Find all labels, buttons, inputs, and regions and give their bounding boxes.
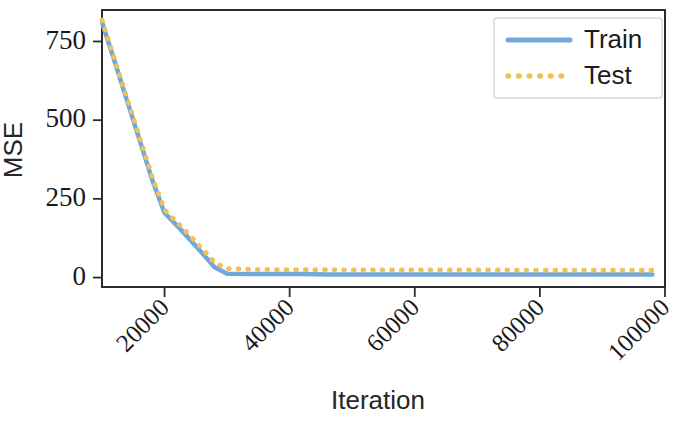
legend-label-test: Test [584,60,632,90]
y-axis-title: MSE [0,122,28,178]
y-tick-label: 750 [46,25,87,55]
y-tick-label: 250 [46,182,87,212]
y-tick-label: 500 [46,103,87,133]
x-axis-title: Iteration [331,385,425,415]
legend-label-train: Train [584,24,642,54]
y-tick-label: 0 [73,261,87,291]
chart-legend: TrainTest [494,18,662,98]
mse-vs-iteration-chart: 0250500750 20000400006000080000100000 MS… [0,0,680,422]
chart-page: 0250500750 20000400006000080000100000 MS… [0,0,680,422]
